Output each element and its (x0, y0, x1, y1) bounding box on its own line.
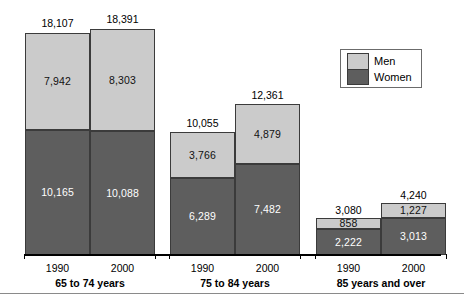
axis-tick (24, 254, 25, 259)
x-axis-line (24, 254, 441, 256)
bar-segment-men: 1,227 (381, 203, 446, 218)
segment-value-women: 2,222 (335, 237, 362, 248)
axis-year-label: 2000 (235, 263, 300, 274)
axis-tick (169, 254, 170, 259)
bar-total-label: 18,391 (90, 14, 155, 25)
bar-segment-men: 858 (316, 218, 381, 229)
legend-swatch-women-icon (347, 69, 369, 85)
legend-label-men: Men (374, 56, 395, 67)
bar-g3-2000: 1,227 3,013 (381, 203, 446, 255)
bar-segment-women: 7,482 (235, 164, 300, 255)
bar-g1-2000: 8,303 10,088 (90, 29, 155, 255)
segment-value-women: 6,289 (189, 211, 216, 222)
bar-segment-men: 8,303 (90, 29, 155, 131)
chart-legend: Men Women (340, 49, 422, 88)
segment-value-men: 858 (340, 218, 358, 229)
bar-segment-men: 3,766 (170, 132, 235, 178)
axis-year-label: 2000 (90, 263, 155, 274)
bar-g2-1990: 3,766 6,289 (170, 132, 235, 255)
bar-g1-1990: 7,942 10,165 (25, 33, 90, 255)
bar-total-label: 12,361 (235, 90, 300, 101)
axis-year-label: 1990 (25, 263, 90, 274)
legend-swatch-men-icon (347, 53, 369, 69)
axis-year-label: 1990 (170, 263, 235, 274)
axis-tick (155, 254, 156, 259)
segment-value-men: 1,227 (400, 205, 427, 216)
bar-g2-2000: 4,879 7,482 (235, 104, 300, 255)
segment-value-women: 10,088 (106, 188, 139, 199)
bar-total-label: 3,080 (316, 205, 381, 216)
axis-group-label: 75 to 84 years (170, 278, 300, 289)
chart-figure: 18,107 7,942 10,165 18,391 8,303 10,088 … (0, 0, 464, 305)
bar-segment-men: 7,942 (25, 33, 90, 130)
bar-total-label: 10,055 (170, 118, 235, 129)
legend-entry-men: Men (347, 53, 395, 69)
segment-value-women: 3,013 (400, 231, 427, 242)
bar-segment-women: 2,222 (316, 229, 381, 255)
segment-value-men: 4,879 (254, 129, 281, 140)
segment-value-women: 7,482 (254, 204, 281, 215)
axis-tick (446, 254, 447, 259)
axis-tick (315, 254, 316, 259)
segment-value-men: 8,303 (109, 75, 136, 86)
bar-total-label: 18,107 (25, 18, 90, 29)
axis-year-label: 1990 (316, 263, 381, 274)
bar-segment-women: 3,013 (381, 218, 446, 255)
axis-group-label: 65 to 74 years (25, 278, 155, 289)
bar-segment-women: 6,289 (170, 178, 235, 255)
footer-divider (0, 293, 464, 294)
axis-year-label: 2000 (381, 263, 446, 274)
legend-label-women: Women (374, 72, 412, 83)
axis-tick (300, 254, 301, 259)
axis-group-label: 85 years and over (316, 278, 446, 289)
bar-g3-1990: 858 2,222 (316, 218, 381, 255)
segment-value-women: 10,165 (41, 187, 74, 198)
bar-segment-men: 4,879 (235, 104, 300, 164)
bar-segment-women: 10,088 (90, 131, 155, 255)
legend-entry-women: Women (347, 69, 412, 85)
segment-value-men: 7,942 (44, 76, 71, 87)
segment-value-men: 3,766 (189, 150, 216, 161)
bar-segment-women: 10,165 (25, 130, 90, 255)
bar-total-label: 4,240 (381, 190, 446, 201)
